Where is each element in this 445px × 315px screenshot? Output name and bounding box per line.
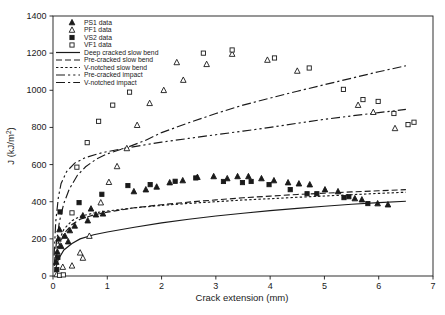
data-point-vf1-data (392, 111, 396, 115)
data-point-vs2-data (366, 201, 370, 205)
x-tick-label: 6 (376, 281, 381, 291)
data-point-pf1-data (370, 109, 376, 114)
x-tick-label: 7 (430, 281, 435, 291)
data-point-vs2-data (288, 188, 292, 192)
data-point-ps1-data (57, 226, 63, 231)
y-axis-title: J (kJ/m2) (5, 127, 17, 164)
data-point-ps1-data (65, 239, 71, 244)
legend-marker-pf1-data (69, 27, 75, 32)
y-tick-label: 1000 (26, 85, 46, 95)
y-tick-label: 1400 (26, 11, 46, 21)
data-point-vf1-data (361, 97, 365, 101)
data-point-pf1-data (77, 250, 83, 255)
data-point-pf1-data (80, 255, 86, 260)
legend-item-pf1-data: PF1 data (69, 26, 112, 33)
legend-label: Pre-cracked slow bend (84, 56, 153, 63)
legend-marker-ps1-data (69, 19, 75, 24)
data-point-vs2-data (100, 192, 104, 196)
data-point-ps1-data (285, 179, 291, 184)
data-point-ps1-data (322, 187, 328, 192)
data-point-vs2-data (342, 196, 346, 200)
y-tick-label: 800 (31, 122, 46, 132)
series-ps1-data (53, 173, 390, 264)
legend-label: VF1 data (84, 41, 112, 48)
data-point-vf1-data (230, 48, 234, 52)
x-tick-label: 1 (105, 281, 110, 291)
data-point-vs2-data (221, 179, 225, 183)
data-point-pf1-data (147, 100, 153, 105)
data-point-vs2-data (56, 255, 60, 259)
data-point-vs2-data (148, 183, 152, 187)
data-point-pf1-data (161, 87, 167, 92)
data-point-ps1-data (335, 188, 341, 193)
data-point-ps1-data (143, 187, 149, 192)
legend-item-vf1-data: VF1 data (70, 41, 112, 48)
data-point-ps1-data (180, 177, 186, 182)
data-point-pf1-data (69, 263, 75, 268)
legend-item-ps1-data: PS1 data (69, 19, 112, 26)
curve-v-notched-slow-bend (55, 192, 406, 262)
data-point-pf1-data (294, 68, 300, 73)
x-tick-label: 4 (268, 281, 273, 291)
legend-item-v-notched-impact: V-notched impact (56, 79, 137, 87)
legend-label: V-notched slow bend (84, 64, 147, 71)
x-tick-label: 2 (159, 281, 164, 291)
data-point-vf1-data (201, 51, 205, 55)
data-point-ps1-data (271, 177, 277, 182)
data-point-pf1-data (265, 57, 271, 62)
data-point-vf1-data (75, 165, 79, 169)
data-point-ps1-data (307, 182, 313, 187)
data-point-ps1-data (131, 188, 137, 193)
legend-marker-vf1-data (70, 43, 74, 47)
data-point-ps1-data (167, 179, 173, 184)
data-point-ps1-data (211, 173, 217, 178)
data-point-pf1-data (392, 125, 398, 130)
x-tick-label: 3 (213, 281, 218, 291)
data-point-vf1-data (412, 120, 416, 124)
data-point-ps1-data (359, 197, 365, 202)
data-point-ps1-data (154, 184, 160, 189)
data-point-vf1-data (307, 66, 311, 70)
legend-marker-vs2-data (70, 35, 74, 39)
data-point-vs2-data (240, 180, 244, 184)
data-point-pf1-data (355, 102, 361, 107)
data-point-vf1-data (406, 123, 410, 127)
y-tick-label: 0 (41, 271, 46, 281)
data-point-pf1-data (174, 59, 180, 64)
data-point-vf1-data (111, 103, 115, 107)
data-point-pf1-data (180, 77, 186, 82)
legend-label: V-notched impact (84, 79, 137, 87)
x-axis-title: Crack extension (mm) (196, 292, 289, 303)
data-point-vf1-data (376, 99, 380, 103)
data-point-vs2-data (194, 176, 198, 180)
data-point-pf1-data (60, 264, 66, 269)
data-point-ps1-data (55, 249, 61, 254)
data-point-ps1-data (88, 206, 94, 211)
curve-v-notched-impact (54, 66, 406, 266)
data-point-vs2-data (305, 192, 309, 196)
data-point-vs2-data (267, 183, 271, 187)
chart-legend: PS1 dataPF1 dataVS2 dataVF1 dataDeep cra… (56, 19, 159, 87)
data-point-vf1-data (127, 90, 131, 94)
data-point-pf1-data (98, 200, 104, 205)
legend-item-v-notched-slow-bend: V-notched slow bend (56, 64, 147, 71)
data-point-vs2-data (55, 267, 59, 271)
y-tick-label: 400 (31, 197, 46, 207)
data-point-vs2-data (126, 183, 130, 187)
legend-label: PF1 data (84, 26, 112, 33)
legend-item-pre-cracked-slow-bend: Pre-cracked slow bend (56, 56, 153, 63)
data-point-ps1-data (296, 181, 302, 186)
data-point-vf1-data (341, 87, 345, 91)
figure-scan: 012345670200400600800100012001400 Crack … (0, 0, 445, 315)
data-point-vs2-data (173, 179, 177, 183)
legend-item-vs2-data: VS2 data (70, 34, 112, 41)
legend-label: PS1 data (84, 19, 112, 26)
data-point-pf1-data (114, 163, 120, 168)
y-tick-label: 200 (31, 234, 46, 244)
x-tick-label: 5 (322, 281, 327, 291)
data-point-pf1-data (106, 179, 112, 184)
data-point-pf1-data (134, 122, 140, 127)
data-point-ps1-data (235, 173, 241, 178)
data-point-vs2-data (249, 179, 253, 183)
data-point-vs2-data (315, 192, 319, 196)
